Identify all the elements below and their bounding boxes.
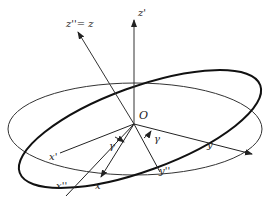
z-double-prime-label: z''= z <box>66 19 94 29</box>
diagram-canvas <box>0 0 266 198</box>
x-prime-label: x' <box>49 152 57 162</box>
gamma-label-1: γ <box>109 141 115 151</box>
y-double-prime-axis <box>134 124 160 172</box>
gamma-arc-2 <box>144 131 151 138</box>
x-axis <box>101 124 134 177</box>
euler-angle-diagram: z' z''= z O x' x'' x y y'' γ γ <box>0 0 266 198</box>
gamma-label-2: γ <box>154 134 160 144</box>
y-label: y <box>207 140 213 150</box>
rotated-plane-ellipse <box>5 46 266 198</box>
origin-label: O <box>139 110 148 121</box>
reference-plane-ellipse <box>8 83 262 175</box>
z-double-prime-axis <box>78 32 134 124</box>
y-axis <box>134 124 252 154</box>
x-label: x <box>95 181 101 191</box>
x-double-prime-label: x'' <box>56 181 67 191</box>
y-double-prime-label: y'' <box>159 166 170 176</box>
gamma-arc-1 <box>115 137 124 142</box>
z-prime-label: z' <box>138 8 146 18</box>
x-prime-axis <box>60 124 134 153</box>
